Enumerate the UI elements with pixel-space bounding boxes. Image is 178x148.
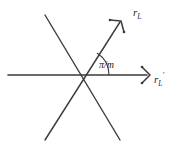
right-ray-label: rL' <box>154 72 164 87</box>
upper-ray-label: rL <box>133 7 141 21</box>
right-ray-label-prime: ' <box>162 71 164 80</box>
diagram-svg <box>0 0 178 148</box>
right-ray-label-subscript: L <box>158 79 162 88</box>
upper-ray-label-subscript: L <box>137 12 141 21</box>
figure-canvas: rL rL' π/m <box>0 0 178 148</box>
angle-label: π/m <box>99 60 114 70</box>
